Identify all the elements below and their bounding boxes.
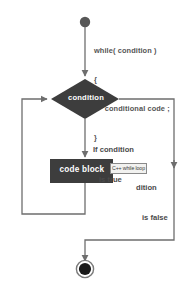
image-tooltip: C++ while loop <box>110 163 147 174</box>
edge-label-true-line1: If condition <box>93 145 134 155</box>
code-line-3: conditional code ; <box>94 104 170 114</box>
code-line-2: { <box>94 75 170 85</box>
end-node-ring <box>76 260 93 277</box>
flowchart-canvas: while( condition ) { conditional code ; … <box>0 0 192 285</box>
edge-label-false-line1: dition <box>136 183 168 193</box>
end-node-core <box>79 263 91 275</box>
edge-label-false: dition is false <box>136 163 168 243</box>
code-line-1: while( condition ) <box>94 46 170 56</box>
edge-label-false-line2: is false <box>136 213 168 223</box>
start-node <box>80 17 90 27</box>
condition-label: condition <box>53 93 119 102</box>
edge-loopback <box>22 99 85 214</box>
edge-label-true-line2: is true <box>93 175 134 185</box>
